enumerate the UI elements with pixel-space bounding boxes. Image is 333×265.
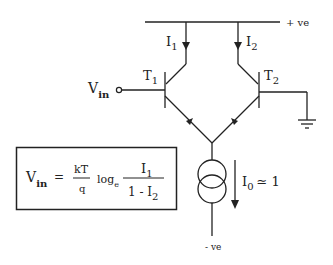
i1-label: I1 — [166, 34, 178, 52]
t2-collector — [238, 64, 258, 84]
equation-log: loge — [97, 173, 119, 189]
t1-label: T1 — [143, 68, 158, 86]
current-source-circle-2 — [198, 175, 226, 203]
i2-label: I2 — [246, 34, 258, 52]
equation-frac2-num: I1 — [141, 161, 153, 179]
equation-frac2-den: 1 - I2 — [128, 185, 158, 202]
i1-arrow-icon — [182, 42, 190, 50]
t2-label: T2 — [264, 68, 279, 86]
vin-label: Vin — [87, 80, 110, 100]
t1-emitter — [165, 96, 212, 143]
equation-lhs: Vin — [25, 169, 48, 189]
i0-arrow-icon — [231, 200, 239, 209]
i2-arrow-icon — [234, 42, 242, 50]
equation-frac1-den: q — [79, 183, 86, 194]
t1-emitter-arrow-icon — [186, 118, 193, 125]
i0-label: I0≃ 1 — [242, 174, 280, 192]
equation-equals: = — [54, 170, 64, 184]
circuit-diagram: + ve I1 I2 T1 Vin T2 - ve I0≃ 1 Vin = kT… — [0, 0, 333, 265]
equation-frac1-num: kT — [74, 163, 89, 176]
positive-supply-label: + ve — [286, 17, 309, 28]
input-terminal-icon — [116, 87, 121, 92]
negative-supply-label: - ve — [205, 242, 221, 252]
t2-emitter-arrow-icon — [231, 118, 238, 125]
current-source-icon — [198, 160, 226, 188]
t1-collector — [166, 64, 186, 84]
t2-emitter — [212, 96, 259, 143]
